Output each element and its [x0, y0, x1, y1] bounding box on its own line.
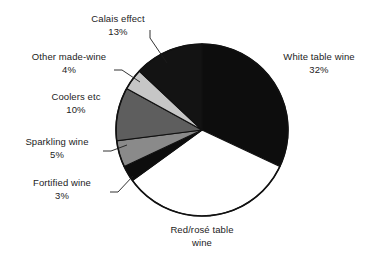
slice-label-other-made-wine-value: 4%	[10, 64, 128, 77]
slice-label-other-made-wine-name: Other made-wine	[10, 51, 128, 64]
slice-label-calais-effect-value: 13%	[62, 26, 174, 39]
slice-label-coolers-etc: Coolers etc 10%	[23, 91, 129, 116]
slice-label-red-rose-table-wine-name-cont: wine	[146, 237, 258, 250]
slice-label-white-table-wine: White table wine 32%	[268, 51, 370, 76]
pie-chart-figure: Calais effect 13% Other made-wine 4% Coo…	[0, 0, 374, 260]
leader-line-fortified	[110, 176, 133, 192]
slice-label-fortified-wine-name: Fortified wine	[12, 177, 112, 190]
slice-label-red-rose-table-wine: Red/rosé table wine	[146, 224, 258, 249]
slice-label-white-table-wine-name: White table wine	[268, 51, 370, 64]
slice-label-calais-effect: Calais effect 13%	[62, 13, 174, 38]
slice-label-sparkling-wine-name: Sparkling wine	[7, 136, 107, 149]
slice-label-other-made-wine: Other made-wine 4%	[10, 51, 128, 76]
slice-label-white-table-wine-value: 32%	[268, 64, 370, 77]
slice-label-coolers-etc-name: Coolers etc	[23, 91, 129, 104]
slice-label-fortified-wine: Fortified wine 3%	[12, 177, 112, 202]
pie-chart-canvas	[0, 0, 374, 260]
slice-label-sparkling-wine-value: 5%	[7, 149, 107, 162]
slice-label-coolers-etc-value: 10%	[23, 104, 129, 117]
slice-label-sparkling-wine: Sparkling wine 5%	[7, 136, 107, 161]
pie-slices-group	[116, 44, 288, 216]
slice-label-calais-effect-name: Calais effect	[62, 13, 174, 26]
slice-label-fortified-wine-value: 3%	[12, 190, 112, 203]
slice-label-red-rose-table-wine-name: Red/rosé table	[146, 224, 258, 237]
